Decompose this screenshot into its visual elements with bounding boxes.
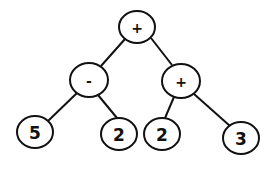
edge-root-to-plus_right — [151, 38, 172, 65]
node-label: + — [131, 20, 143, 36]
node-label: 5 — [29, 123, 41, 143]
edge-root-to-minus — [101, 39, 125, 66]
node-label: 2 — [156, 125, 168, 145]
tree-nodes: +-+5223 — [17, 11, 259, 154]
edge-plus_right-to-leaf_3 — [194, 94, 230, 126]
tree-node-leaf_2a: 2 — [101, 118, 137, 150]
tree-node-leaf_5: 5 — [17, 116, 53, 148]
node-label: 2 — [113, 125, 125, 145]
expression-tree-diagram: +-+5223 — [0, 0, 272, 171]
node-label: - — [86, 73, 92, 89]
node-label: + — [175, 74, 187, 90]
tree-node-leaf_3: 3 — [223, 122, 259, 154]
edge-plus_right-to-leaf_2b — [165, 97, 174, 118]
tree-node-minus: - — [70, 63, 108, 97]
edge-minus-to-leaf_2a — [98, 95, 117, 118]
tree-node-plus_right: + — [162, 64, 200, 98]
edge-minus-to-leaf_5 — [48, 93, 77, 121]
tree-node-leaf_2b: 2 — [144, 118, 180, 150]
tree-node-root: + — [119, 11, 155, 43]
node-label: 3 — [235, 129, 247, 149]
